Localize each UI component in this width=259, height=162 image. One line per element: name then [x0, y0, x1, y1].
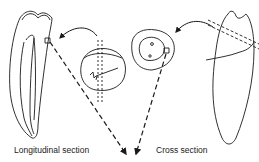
- dashed-arrow-from-longitudinal: [50, 42, 126, 154]
- longitudinal-slice-disc: [81, 40, 126, 102]
- dashed-arrow-from-cross: [136, 54, 166, 154]
- longitudinal-tooth: [10, 11, 52, 138]
- cross-section-slice: [132, 30, 175, 71]
- curved-arrow-right: [176, 21, 213, 32]
- curved-arrow-left: [60, 28, 97, 38]
- cross-tooth: [206, 11, 259, 144]
- longitudinal-section-label: Longitudinal section: [14, 145, 89, 155]
- tooth-sectioning-diagram: [0, 0, 259, 162]
- cross-section-label: Cross section: [156, 145, 208, 155]
